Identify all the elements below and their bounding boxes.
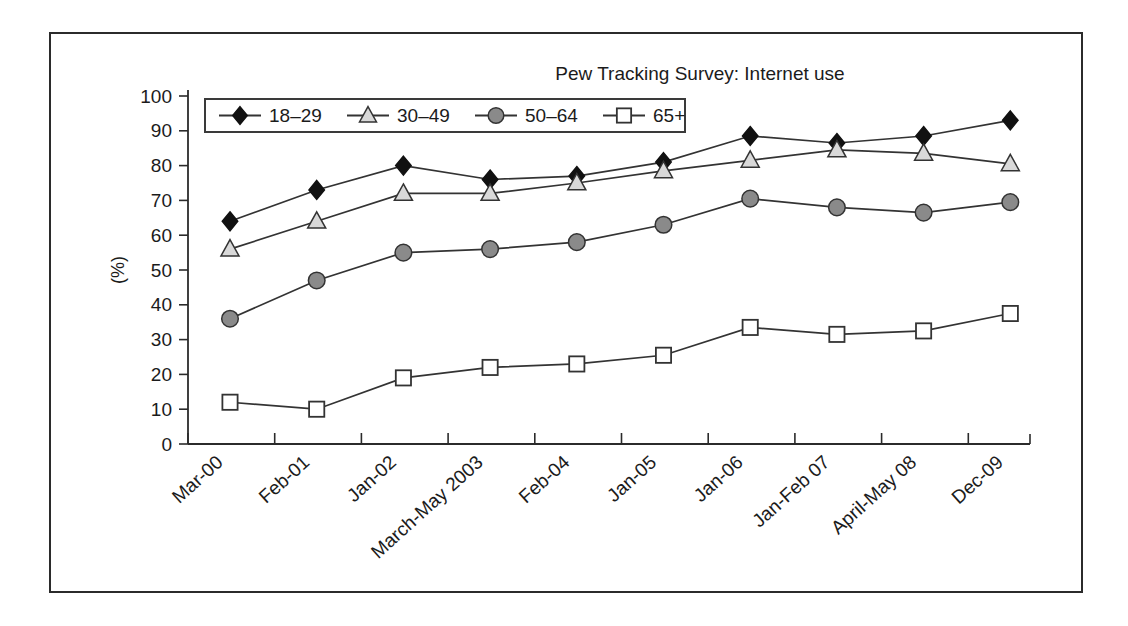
data-marker-circle	[569, 234, 586, 251]
data-marker-square	[916, 323, 931, 338]
x-category-label: Jan-Feb 07	[748, 451, 833, 531]
data-marker-circle	[915, 204, 932, 221]
data-marker-square	[222, 395, 237, 410]
data-marker-circle	[742, 190, 759, 207]
chart-figure: 0102030405060708090100(%)Mar-00Feb-01Jan…	[0, 0, 1128, 626]
data-marker-circle	[829, 199, 846, 216]
data-marker-diamond	[1003, 111, 1019, 130]
series-group	[230, 120, 1010, 221]
data-marker-square	[569, 356, 584, 371]
y-tick-label: 50	[151, 260, 172, 281]
y-tick-label: 60	[151, 225, 172, 246]
y-tick-label: 100	[140, 86, 172, 107]
data-marker-square	[483, 360, 498, 375]
data-marker-circle	[395, 244, 412, 261]
x-category-label: Feb-01	[255, 451, 314, 507]
y-tick-label: 10	[151, 399, 172, 420]
data-marker-square	[617, 108, 631, 122]
legend-label: 30–49	[397, 105, 450, 126]
y-tick-label: 80	[151, 155, 172, 176]
data-marker-circle	[1002, 194, 1019, 211]
x-category-label: Jan-02	[343, 451, 400, 505]
chart-legend: 18–2930–4950–6465+	[205, 99, 685, 132]
data-marker-square	[656, 348, 671, 363]
legend-label: 65+	[653, 105, 685, 126]
x-category-label: Dec-09	[947, 451, 1007, 508]
x-category-label: Mar-00	[168, 451, 227, 507]
y-axis-title: (%)	[108, 256, 128, 284]
chart-canvas: 0102030405060708090100(%)Mar-00Feb-01Jan…	[0, 0, 1128, 626]
data-marker-diamond	[742, 127, 758, 146]
legend-label: 50–64	[525, 105, 578, 126]
data-marker-diamond	[309, 180, 325, 199]
series-group	[230, 314, 1010, 410]
y-tick-label: 0	[161, 434, 172, 455]
data-marker-square	[829, 327, 844, 342]
x-category-label: Feb-04	[515, 451, 574, 507]
data-marker-square	[309, 402, 324, 417]
y-tick-label: 30	[151, 329, 172, 350]
data-marker-square	[743, 320, 758, 335]
series-markers	[221, 140, 1019, 256]
data-marker-circle	[655, 216, 672, 233]
series-line	[230, 120, 1010, 221]
data-marker-circle	[488, 108, 504, 124]
x-category-label: Jan-05	[603, 451, 660, 505]
data-marker-triangle	[915, 144, 933, 160]
legend-label: 18–29	[269, 105, 322, 126]
data-marker-triangle	[394, 184, 412, 200]
data-marker-square	[396, 370, 411, 385]
chart-title: Pew Tracking Survey: Internet use	[555, 63, 844, 84]
y-tick-label: 90	[151, 120, 172, 141]
y-tick-label: 70	[151, 190, 172, 211]
data-marker-square	[1003, 306, 1018, 321]
data-marker-diamond	[222, 212, 238, 231]
series-group	[230, 199, 1010, 319]
data-marker-circle	[222, 310, 239, 327]
data-marker-diamond	[396, 156, 412, 175]
series-line	[230, 314, 1010, 410]
data-marker-circle	[308, 272, 325, 289]
data-marker-circle	[482, 241, 499, 258]
x-category-label: April-May 08	[827, 451, 920, 538]
y-tick-label: 20	[151, 364, 172, 385]
x-category-label: Jan-06	[690, 451, 747, 505]
y-tick-label: 40	[151, 294, 172, 315]
series-line	[230, 199, 1010, 319]
